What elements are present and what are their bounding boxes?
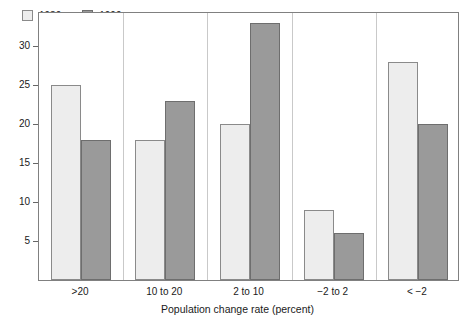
group-separator	[123, 13, 124, 280]
bar-1990s-3	[334, 233, 364, 280]
x-tick-label: < −2	[407, 286, 427, 298]
bar-1990s-0	[81, 140, 111, 280]
y-tick-mark	[33, 241, 38, 242]
group-separator	[292, 13, 293, 280]
y-tick-label: 30	[19, 40, 30, 51]
y-tick-mark	[33, 202, 38, 203]
x-axis-title: Population change rate (percent)	[0, 303, 475, 316]
y-tick-label: 15	[19, 157, 30, 168]
x-tick-label: −2 to 2	[317, 286, 348, 298]
bars-layer	[39, 13, 458, 280]
y-tick-mark	[33, 85, 38, 86]
bar-1980s-4	[388, 62, 418, 280]
bar-1980s-1	[135, 140, 165, 280]
x-tick-label: >20	[72, 286, 89, 298]
bar-1980s-3	[304, 210, 334, 280]
y-tick-label: 20	[19, 118, 30, 129]
bar-1980s-2	[220, 124, 250, 280]
plot-area	[38, 12, 459, 281]
y-tick-mark	[33, 46, 38, 47]
x-tick-label: 10 to 20	[146, 286, 182, 298]
group-separator	[376, 13, 377, 280]
bar-1990s-1	[165, 101, 195, 280]
y-tick-mark	[33, 163, 38, 164]
group-separator	[207, 13, 208, 280]
y-tick-label: 10	[19, 196, 30, 207]
bar-1990s-2	[250, 23, 280, 280]
bar-1980s-0	[51, 85, 81, 280]
bar-chart-figure: 1980s 1990s 51015202530 >2010 to 202 to …	[0, 0, 475, 324]
bar-1990s-4	[418, 124, 448, 280]
y-tick-mark	[33, 124, 38, 125]
y-tick-label: 25	[19, 79, 30, 90]
legend-swatch-1980s	[22, 10, 33, 21]
x-tick-label: 2 to 10	[233, 286, 264, 298]
y-tick-label: 5	[24, 235, 30, 246]
